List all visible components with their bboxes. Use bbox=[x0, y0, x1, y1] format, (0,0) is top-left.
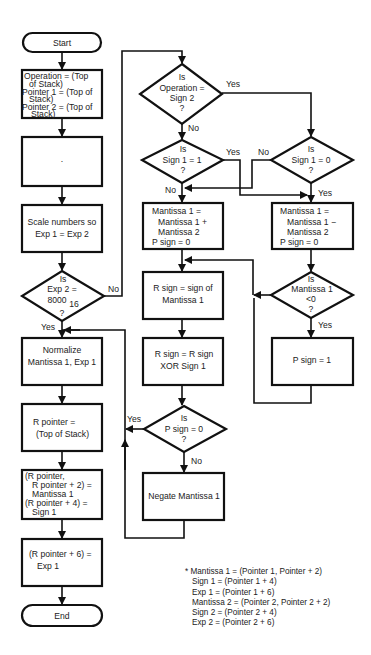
end-label: End bbox=[54, 611, 70, 621]
storeexp-line-2: Exp 1 bbox=[37, 561, 59, 571]
scale-line-1: Scale numbers so bbox=[28, 217, 97, 227]
store-line-5: Sign 1 bbox=[32, 507, 57, 517]
normalize-line-2: Mantissa 1, Exp 1 bbox=[28, 357, 97, 367]
sub-line-4: P sign = 0 bbox=[280, 237, 319, 247]
footnote-line-1: * Mantissa 1 = (Pointer 1, Pointer + 2) bbox=[185, 567, 322, 576]
psign1-line-1: P sign = 1 bbox=[293, 355, 332, 365]
s1eq1-line-1: Is bbox=[180, 144, 187, 154]
op-line-3: Sign 2 bbox=[170, 93, 195, 103]
psign-line-1: Is bbox=[181, 413, 188, 423]
exp2-no-label: No bbox=[108, 284, 119, 294]
xor-line-2: XOR Sign 1 bbox=[160, 361, 206, 371]
footnote-definitions: * Mantissa 1 = (Pointer 1, Pointer + 2) … bbox=[185, 567, 331, 627]
footnote-line-5: Sign 2 = (Pointer 2 + 4) bbox=[192, 608, 277, 617]
s1eq0-no-label: No bbox=[258, 147, 269, 157]
op-no-label: No bbox=[188, 123, 199, 133]
init-pointers-box: Operation = (Top of Stack) Pointer 1 = (… bbox=[22, 70, 102, 119]
add-line-3: Mantissa 2 bbox=[158, 227, 200, 237]
negate-line-1: Negate Mantissa 1 bbox=[148, 491, 220, 501]
exp2-yes-label: Yes bbox=[41, 322, 55, 332]
exp2-subscript: 16 bbox=[69, 299, 79, 309]
negate-mantissa-box: Negate Mantissa 1 bbox=[143, 473, 224, 520]
footnote-line-3: Exp 1 = (Pointer 1 + 6) bbox=[192, 588, 275, 597]
exp2-line-3: 8000 bbox=[47, 295, 66, 305]
s1eq0-line-2: Sign 1 = 0 bbox=[292, 155, 331, 165]
add-mantissas-box: Mantissa 1 = Mantissa 1 + Mantissa 2 P s… bbox=[143, 203, 223, 249]
exp2-line-2: Exp 2 = bbox=[47, 284, 76, 294]
footnote-line-4: Mantissa 2 = (Pointer 2, Pointer 2 + 2) bbox=[192, 598, 331, 607]
mantneg-line-1: Is bbox=[308, 274, 315, 284]
scale-line-2: Exp 1 = Exp 2 bbox=[35, 229, 89, 239]
s1eq0-yes-label: Yes bbox=[318, 188, 332, 198]
end-terminal: End bbox=[22, 605, 102, 626]
rsign-line-1: R sign = sign of bbox=[153, 283, 213, 293]
decision-exp2: Is Exp 2 = 8000 16 ? bbox=[22, 271, 104, 321]
sub-line-1: Mantissa 1 = bbox=[280, 206, 329, 216]
op-line-4: ? bbox=[180, 103, 185, 113]
op-line-2: Operation = bbox=[159, 83, 204, 93]
decision-sign1-eq-0: Is Sign 1 = 0 ? bbox=[271, 137, 353, 183]
s1eq1-line-2: Sign 1 = 1 bbox=[163, 155, 202, 165]
psign-line-3: ? bbox=[182, 434, 187, 444]
psign-one-box: P sign = 1 bbox=[272, 338, 353, 385]
exp2-line-1: Is bbox=[60, 274, 67, 284]
blank-process-box: · bbox=[22, 137, 102, 186]
op-yes-label: Yes bbox=[226, 79, 240, 89]
storeexp-line-1: (R pointer + 6) = bbox=[29, 549, 92, 559]
add-line-1: Mantissa 1 = bbox=[152, 206, 201, 216]
psign-yes-label: Yes bbox=[127, 414, 141, 424]
start-label: Start bbox=[53, 38, 72, 48]
decision-operation-sign2: Is Operation = Sign 2 ? bbox=[140, 64, 222, 124]
s1eq0-line-1: Is bbox=[308, 144, 315, 154]
mantneg-line-4: ? bbox=[309, 304, 314, 314]
blank-box-mark: · bbox=[61, 156, 64, 166]
sub-line-3: Mantissa 2 bbox=[287, 227, 329, 237]
add-line-2: Mantissa 1 + bbox=[158, 217, 207, 227]
mantneg-line-2: Mantissa 1 bbox=[291, 284, 333, 294]
normalize-box: Normalize Mantissa 1, Exp 1 bbox=[22, 338, 102, 385]
decision-mantissa-negative: Is Mantissa 1 <0 ? bbox=[271, 272, 353, 318]
mantneg-line-3: <0 bbox=[306, 294, 316, 304]
rpointer-line-1: R pointer = bbox=[33, 417, 75, 427]
s1eq1-line-3: ? bbox=[181, 165, 186, 175]
footnote-line-6: Exp 2 = (Pointer 2 + 6) bbox=[192, 618, 275, 627]
add-line-4: P sign = 0 bbox=[152, 237, 191, 247]
psign-line-2: P sign = 0 bbox=[165, 424, 204, 434]
store-mantissa-sign-box: (R pointer, R pointer + 2) = Mantissa 1 … bbox=[22, 470, 102, 519]
psign-no-label: No bbox=[191, 456, 202, 466]
rpointer-line-2: (Top of Stack) bbox=[36, 429, 89, 439]
normalize-line-1: Normalize bbox=[43, 345, 82, 355]
r-sign-box: R sign = sign of Mantissa 1 bbox=[143, 272, 223, 319]
xor-sign-box: R sign = R sign XOR Sign 1 bbox=[143, 338, 223, 385]
exp2-line-5: ? bbox=[60, 308, 65, 318]
op-line-1: Is bbox=[179, 72, 186, 82]
flowchart-canvas: Start Operation = (Top of Stack) Pointer… bbox=[0, 0, 371, 655]
xor-line-1: R sign = R sign bbox=[155, 349, 214, 359]
s1eq1-yes-label: Yes bbox=[226, 147, 240, 157]
arrow-op-yes bbox=[222, 93, 311, 136]
decision-psign-eq-0: Is P sign = 0 ? bbox=[144, 406, 226, 452]
init-line-6: Stack) bbox=[31, 109, 55, 119]
store-exp-box: (R pointer + 6) = Exp 1 bbox=[22, 539, 102, 586]
scale-numbers-box: Scale numbers so Exp 1 = Exp 2 bbox=[22, 205, 102, 252]
footnote-line-2: Sign 1 = (Pointer 1 + 4) bbox=[192, 577, 277, 586]
r-pointer-box: R pointer = (Top of Stack) bbox=[22, 404, 102, 451]
rsign-line-2: Mantissa 1 bbox=[162, 295, 204, 305]
subtract-mantissas-box: Mantissa 1 = Mantissa 1 − Mantissa 2 P s… bbox=[272, 203, 353, 249]
sub-line-2: Mantissa 1 − bbox=[287, 217, 336, 227]
start-terminal: Start bbox=[23, 33, 101, 52]
mantneg-yes-label: Yes bbox=[318, 320, 332, 330]
s1eq0-line-3: ? bbox=[309, 165, 314, 175]
decision-sign1-eq-1: Is Sign 1 = 1 ? bbox=[142, 140, 223, 183]
s1eq1-no-label: No bbox=[165, 185, 176, 195]
